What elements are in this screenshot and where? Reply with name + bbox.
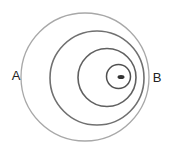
- label-b: B: [153, 70, 162, 85]
- wavefronts: [21, 13, 149, 141]
- label-a: A: [12, 68, 21, 83]
- wave-source-dot: [118, 75, 125, 79]
- doppler-wavefront-diagram: A B: [0, 0, 171, 150]
